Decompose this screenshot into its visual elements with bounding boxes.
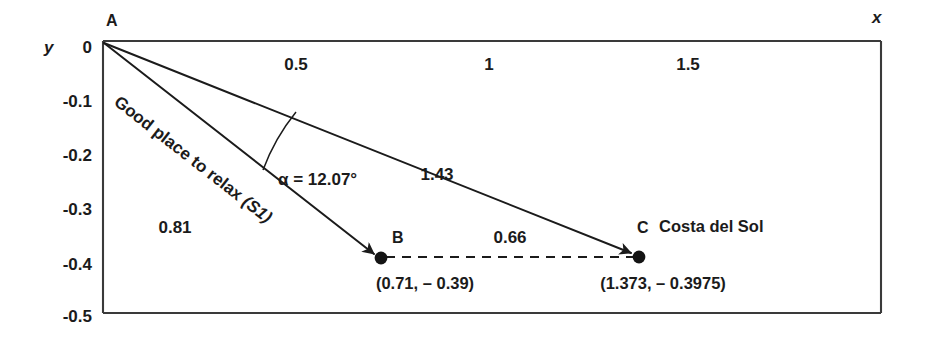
x-tick-2: 1.5 <box>676 55 700 74</box>
segment-bc-length-label: 0.66 <box>493 228 526 247</box>
point-c-label: C <box>637 219 649 236</box>
y-tick-labels: 0 -0.1 -0.2 -0.3 -0.4 -0.5 <box>63 38 93 326</box>
vector-a-to-b <box>104 43 374 254</box>
point-a-label: A <box>106 12 118 29</box>
destination-label: Costa del Sol <box>659 217 764 235</box>
angle-arc <box>263 112 296 170</box>
point-b-dot <box>375 252 388 265</box>
y-tick-5: -0.5 <box>63 307 92 326</box>
segment-ac-length-label: 1.43 <box>420 165 453 184</box>
x-tick-0: 0.5 <box>284 55 308 74</box>
y-tick-4: -0.4 <box>63 255 93 274</box>
point-c-dot <box>633 251 646 264</box>
y-tick-3: -0.3 <box>63 200 92 219</box>
point-b-label: B <box>392 229 404 246</box>
angle-label: α = 12.07° <box>278 170 357 189</box>
diagram-canvas: y x 0 -0.1 -0.2 -0.3 -0.4 -0.5 0.5 1 1.5 <box>0 0 926 339</box>
y-tick-0: 0 <box>83 38 92 57</box>
point-c-coordinates: (1.373, – 0.3975) <box>600 274 726 292</box>
y-tick-2: -0.2 <box>63 146 92 165</box>
path-label-plain: Good place to relax <box>111 92 251 207</box>
x-tick-1: 1 <box>484 55 493 74</box>
segment-ab-length-label: 0.81 <box>158 218 191 237</box>
y-axis-label: y <box>43 38 55 57</box>
y-tick-1: -0.1 <box>63 92 92 111</box>
x-tick-labels: 0.5 1 1.5 <box>284 55 700 74</box>
point-b-coordinates: (0.71, – 0.39) <box>376 274 474 292</box>
x-axis-label: x <box>871 8 883 27</box>
vector-diagram-figure: y x 0 -0.1 -0.2 -0.3 -0.4 -0.5 0.5 1 1.5 <box>0 0 926 339</box>
